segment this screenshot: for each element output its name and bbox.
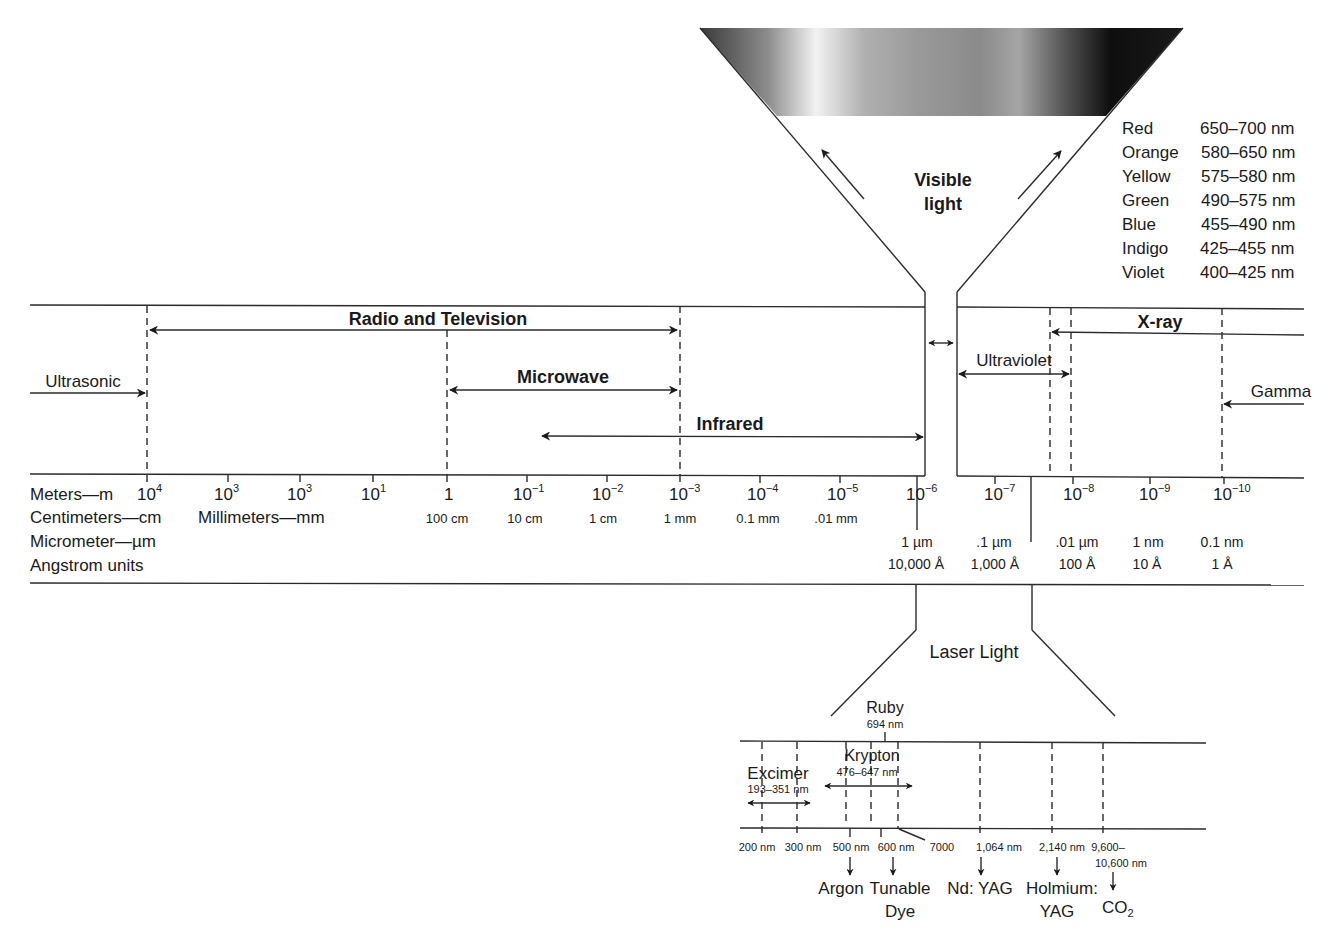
micrometer-value: 1 µm (901, 534, 932, 550)
holmium-yag-label: YAG (1040, 902, 1075, 921)
mm-value: 1 mm (664, 511, 697, 526)
meter-value: 103 (287, 482, 312, 504)
micrometer-row-label: Micrometer—µm (30, 532, 156, 551)
visible-light-funnel: Visible light (700, 28, 1183, 476)
meter-value: 10−9 (1139, 482, 1170, 504)
arrow-up-left-icon (822, 150, 864, 199)
ruby-label: Ruby (866, 699, 903, 716)
electromagnetic-spectrum-diagram: Visible light Red 650–700 nm Orange 580–… (0, 0, 1338, 930)
radio-television-label: Radio and Television (349, 309, 528, 329)
color-name-yellow: Yellow (1122, 167, 1171, 186)
meter-value: 1 (444, 485, 453, 504)
argon-label: Argon (818, 879, 863, 898)
color-range-red: 650–700 nm (1200, 119, 1295, 138)
color-range-yellow: 575–580 nm (1201, 167, 1296, 186)
angstrom-row-label: Angstrom units (30, 556, 143, 575)
micrometer-scale-values: 1 µm .1 µm .01 µm 1 nm 0.1 nm (901, 534, 1243, 550)
meter-value: 10−5 (827, 482, 858, 504)
color-name-red: Red (1122, 119, 1153, 138)
laser-tick-600nm: 600 nm (878, 841, 915, 853)
excimer-label: Excimer (747, 764, 809, 783)
laser-tick-10600nm: 10,600 nm (1095, 857, 1147, 869)
cm-value: 10 cm (507, 511, 542, 526)
laser-tick-200nm: 200 nm (739, 841, 776, 853)
infrared-arrow (542, 436, 923, 437)
color-range-indigo: 425–455 nm (1200, 239, 1295, 258)
millimeters-row-label: Millimeters—mm (198, 508, 325, 527)
color-name-indigo: Indigo (1122, 239, 1168, 258)
meter-value: 10−8 (1063, 482, 1094, 504)
arrow-up-right-icon (1018, 151, 1061, 199)
meter-value: 104 (137, 482, 162, 504)
laser-light-title: Laser Light (929, 642, 1018, 662)
angstrom-value: 1 Å (1211, 556, 1233, 572)
ultrasonic-label: Ultrasonic (45, 372, 121, 391)
microwave-label: Microwave (517, 367, 609, 387)
color-name-green: Green (1122, 191, 1169, 210)
visible-spectrum-gradient (700, 28, 1183, 116)
color-name-orange: Orange (1122, 143, 1179, 162)
visible-light-label-line1: Visible (914, 170, 972, 190)
laser-tick-2140nm: 2,140 nm (1039, 841, 1085, 853)
band-labels: Radio and Television Ultrasonic Microwav… (30, 309, 1312, 437)
laser-tick-7000: 7000 (930, 841, 954, 853)
visible-light-label-line2: light (924, 194, 962, 214)
mm-value: .01 mm (814, 511, 857, 526)
color-range-green: 490–575 nm (1201, 191, 1296, 210)
laser-light-funnel: Laser Light (831, 584, 1115, 716)
meter-value: 10−7 (984, 482, 1015, 504)
tunable-label: Tunable (870, 879, 931, 898)
holmium-label: Holmium: (1026, 879, 1098, 898)
xray-label: X-ray (1137, 312, 1182, 332)
ndyag-label: Nd: YAG (947, 879, 1013, 898)
nanometer-value: 1 nm (1132, 534, 1163, 550)
color-range-violet: 400–425 nm (1200, 263, 1295, 282)
color-range-blue: 455–490 nm (1201, 215, 1296, 234)
angstrom-scale-values: 10,000 Å 1,000 Å 100 Å 10 Å 1 Å (888, 556, 1233, 572)
meter-value: 10−4 (747, 482, 778, 504)
scale-row-labels: Meters—m Centimeters—cm Millimeters—mm M… (30, 485, 325, 575)
cm-value: 1 cm (589, 511, 617, 526)
krypton-label: Krypton (844, 747, 899, 764)
centimeters-row-label: Centimeters—cm (30, 508, 161, 527)
ruby-wavelength: 694 nm (867, 718, 904, 730)
color-range-orange: 580–650 nm (1201, 143, 1296, 162)
co2-label: CO2 (1102, 898, 1134, 919)
meter-value: 10−3 (669, 482, 700, 504)
micrometer-value: .01 µm (1055, 534, 1098, 550)
ultraviolet-label: Ultraviolet (976, 351, 1052, 370)
xray-arrow (1052, 332, 1304, 335)
micrometer-value: .1 µm (976, 534, 1011, 550)
infrared-label: Infrared (696, 414, 763, 434)
meter-value: 103 (214, 482, 239, 504)
cm-value: 100 cm (426, 511, 469, 526)
mm-value: 0.1 mm (736, 511, 779, 526)
gamma-label: Gamma (1251, 382, 1312, 401)
cm-mm-scale-values: 100 cm 10 cm 1 cm 1 mm 0.1 mm .01 mm (426, 511, 858, 526)
spectrum-band-frame (30, 305, 1304, 585)
angstrom-value: 1,000 Å (971, 556, 1020, 572)
laser-tick-500nm: 500 nm (833, 841, 870, 853)
color-name-blue: Blue (1122, 215, 1156, 234)
meter-value: 101 (361, 482, 386, 504)
meter-value: 10−10 (1213, 482, 1251, 504)
excimer-range: 193–351 nm (747, 783, 808, 795)
color-wavelength-legend: Red 650–700 nm Orange 580–650 nm Yellow … (1122, 119, 1296, 282)
angstrom-value: 10 Å (1133, 556, 1162, 572)
nanometer-value: 0.1 nm (1201, 534, 1244, 550)
laser-tick-300nm: 300 nm (785, 841, 822, 853)
meters-row-label: Meters—m (30, 485, 113, 504)
color-name-violet: Violet (1122, 263, 1164, 282)
dye-label: Dye (885, 902, 915, 921)
meter-value: 10−6 (906, 482, 937, 504)
laser-wavelength-chart: Ruby 694 nm Krypton 476–647 nm Excimer 1… (739, 699, 1206, 921)
angstrom-value: 10,000 Å (888, 556, 945, 572)
meter-scale-values: 104 103 103 101 1 10−1 10−2 10−3 10−4 10… (137, 482, 1251, 504)
krypton-range: 476–647 nm (836, 766, 897, 778)
laser-tick-9600: 9,600– (1091, 841, 1126, 853)
meter-value: 10−1 (513, 482, 544, 504)
angstrom-value: 100 Å (1059, 556, 1096, 572)
laser-tick-1064nm: 1,064 nm (976, 841, 1022, 853)
meter-value: 10−2 (592, 482, 623, 504)
